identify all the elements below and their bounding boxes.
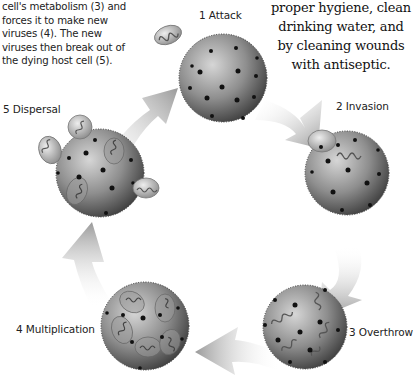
arrow-4-to-5 xyxy=(62,222,110,308)
cell-stage-3 xyxy=(263,285,347,369)
budding-virus xyxy=(68,115,92,139)
stage-label-multiplication: 4 Multiplication xyxy=(16,323,95,335)
cell-stage-2 xyxy=(305,130,389,215)
cell-stage-4 xyxy=(101,282,189,370)
budding-virus xyxy=(133,178,159,198)
stage-label-dispersal: 5 Dispersal xyxy=(3,103,61,115)
stage-label-overthrow: 3 Overthrow xyxy=(349,326,413,338)
cell-stage-1 xyxy=(179,34,267,122)
stage-label-invasion: 2 Invasion xyxy=(336,100,389,112)
stage-label-attack: 1 Attack xyxy=(199,9,242,21)
virus-particle-attacking xyxy=(152,22,184,48)
